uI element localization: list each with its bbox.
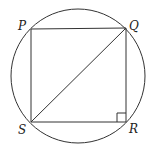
label-p: P <box>17 19 27 33</box>
geometry-diagram: P Q R S <box>0 0 153 150</box>
label-s: S <box>18 123 26 137</box>
diagonal-sq <box>31 28 126 122</box>
label-q: Q <box>129 19 139 33</box>
right-angle-mark <box>117 113 126 122</box>
label-r: R <box>128 122 138 136</box>
